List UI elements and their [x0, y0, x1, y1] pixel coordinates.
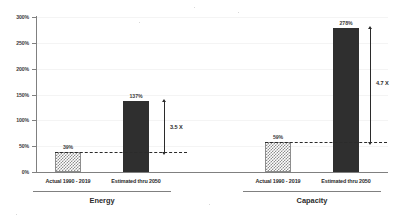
- arrow-head-up-icon: [368, 26, 372, 29]
- bar-value-energy-actual: 39%: [55, 144, 81, 150]
- arrow-head-down-icon: [162, 152, 166, 155]
- group-label-energy: Energy: [33, 196, 171, 205]
- y-axis-label-50: 50%: [3, 143, 29, 149]
- category-label-energy-estimated: Estimated thru 2050: [96, 178, 176, 184]
- scan-speck: [16, 214, 17, 215]
- category-label-capacity-estimated: Estimated thru 2050: [306, 178, 386, 184]
- group-separator-capacity: [243, 191, 381, 192]
- bar-value-capacity-actual: 59%: [265, 134, 291, 140]
- gridline-300: [37, 17, 388, 18]
- arrow-head-up-icon: [162, 99, 166, 102]
- bar-capacity-estimated: [333, 28, 359, 172]
- bar-value-capacity-estimated: 278%: [331, 20, 361, 26]
- reference-line-energy: [55, 152, 187, 153]
- y-axis-line: [36, 16, 37, 173]
- bar-energy-estimated: [123, 101, 149, 172]
- y-tick-mark-0: [32, 172, 36, 173]
- bar-capacity-actual: [265, 142, 291, 172]
- y-tick-mark-300: [32, 17, 36, 18]
- y-axis-label-200: 200%: [3, 66, 29, 72]
- group-label-capacity: Capacity: [243, 196, 381, 205]
- y-axis-label-250: 250%: [3, 40, 29, 46]
- y-tick-mark-50: [32, 146, 36, 147]
- arrow-head-down-icon: [368, 142, 372, 145]
- y-tick-mark-100: [32, 120, 36, 121]
- group-separator-energy: [33, 191, 171, 192]
- scan-speck: [238, 12, 239, 13]
- bar-chart: 300% 250% 200% 150% 100% 50% 0% 39% 137%…: [0, 0, 396, 220]
- y-axis-label-100: 100%: [3, 117, 29, 123]
- y-axis-label-0: 0%: [3, 169, 29, 175]
- multiplier-label-capacity: 4.7 X: [376, 80, 389, 86]
- y-tick-mark-200: [32, 69, 36, 70]
- multiplier-arrow-energy: [164, 102, 165, 152]
- bar-energy-actual: [55, 152, 81, 172]
- y-tick-mark-150: [32, 95, 36, 96]
- multiplier-arrow-capacity: [370, 29, 371, 142]
- x-axis-line: [36, 172, 388, 173]
- multiplier-label-energy: 3.5 X: [170, 124, 183, 130]
- scan-speck: [194, 7, 195, 8]
- bar-value-energy-estimated: 137%: [121, 93, 151, 99]
- y-tick-mark-250: [32, 43, 36, 44]
- y-axis-label-150: 150%: [3, 92, 29, 98]
- scan-speck: [139, 22, 140, 23]
- scan-speck: [209, 204, 210, 205]
- y-axis-label-300: 300%: [3, 14, 29, 20]
